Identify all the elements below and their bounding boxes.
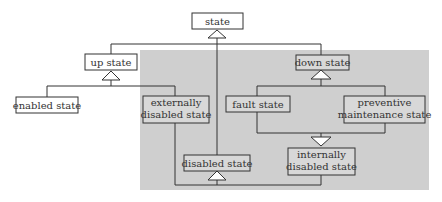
node-externally-disabled-state[interactable]: externally disabled state [141, 96, 212, 123]
node-label: state [205, 16, 230, 27]
node-label: disabled state [182, 158, 253, 169]
node-internally-disabled-state[interactable]: internally disabled state [286, 148, 357, 175]
node-up-state[interactable]: up state [85, 54, 137, 70]
generalization-triangle-state [208, 30, 226, 38]
node-label-line-1: internally [297, 149, 346, 160]
node-label-line-2: disabled state [141, 109, 212, 120]
node-enabled-state[interactable]: enabled state [13, 97, 82, 113]
node-label: enabled state [13, 100, 82, 111]
node-disabled-state[interactable]: disabled state [182, 155, 253, 171]
node-state[interactable]: state [192, 13, 243, 29]
node-label-line-1: externally [151, 97, 202, 108]
node-label-line-2: maintenance state [338, 109, 432, 120]
node-label: up state [90, 57, 131, 68]
state-hierarchy-diagram: state up state enabled state externally … [0, 0, 442, 202]
generalization-triangle-upstate [102, 71, 120, 80]
node-down-state[interactable]: down state [295, 55, 351, 70]
node-label: fault state [232, 99, 284, 110]
node-label-line-2: disabled state [286, 161, 357, 172]
node-fault-state[interactable]: fault state [226, 96, 290, 112]
node-label-line-1: preventive [358, 97, 412, 108]
node-label: down state [295, 57, 351, 68]
node-preventive-maintenance-state[interactable]: preventive maintenance state [338, 96, 432, 123]
